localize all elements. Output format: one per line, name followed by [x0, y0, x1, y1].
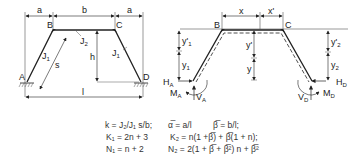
label-MA: MA	[170, 88, 182, 99]
label-y2-prime: y'2	[331, 37, 341, 48]
label-y1: y1	[182, 60, 191, 71]
label-y1-prime: y'1	[182, 36, 192, 47]
formula-N1: N₁ = n + 2	[106, 144, 144, 154]
formula-K2: K₂ = n(1 +β̅) + β̅(1 + n);	[170, 132, 258, 142]
label-J1-left: J1	[42, 51, 51, 62]
label-b: b	[82, 5, 87, 15]
node-C-label: C	[285, 20, 292, 30]
label-a-right: a	[127, 5, 132, 15]
label-s: s	[55, 60, 60, 70]
formula-N2: N₂ = 2(1 + β̅ + β̅²) n + β̅²	[168, 144, 259, 154]
label-y2: y2	[331, 60, 340, 71]
label-VD: VD	[298, 92, 309, 103]
node-A-label: A	[19, 72, 25, 82]
formula-beta-bar: β̅ = b/l;	[213, 120, 239, 130]
label-a-left: a	[37, 5, 42, 15]
label-HD: HD	[336, 77, 348, 88]
dim-s	[40, 38, 66, 89]
label-h: h	[90, 52, 95, 62]
label-MD: MD	[323, 88, 336, 99]
label-y-prime: y'	[246, 40, 253, 50]
node-D-label: D	[143, 72, 150, 82]
label-VA: VA	[196, 92, 206, 103]
deflected-shape	[196, 33, 309, 82]
right-frame-diagram: x x' B C y' y y'1 y1 y'2 y2 HA VA	[163, 6, 348, 103]
label-x: x	[239, 6, 244, 16]
formula-K1: K₁ = 2n + 3	[106, 132, 148, 142]
label-HA: HA	[163, 77, 174, 88]
formula-k: k = J₂/J₁ s/b;	[105, 120, 152, 130]
support-A	[19, 83, 34, 87]
node-C-label: C	[116, 20, 123, 30]
label-J1-right: J1	[112, 48, 121, 59]
label-y: y	[247, 64, 252, 74]
node-B-label: B	[214, 20, 220, 30]
node-A-label: B	[47, 20, 53, 30]
support-D	[134, 83, 148, 87]
label-l: l	[82, 87, 84, 97]
left-frame-diagram: a b a B C A D J2 J1 J1 s h	[19, 5, 150, 97]
formula-alpha-bar: α̅ = a/l	[168, 120, 192, 130]
label-J2: J2	[80, 36, 89, 47]
label-x-prime: x'	[268, 6, 275, 16]
